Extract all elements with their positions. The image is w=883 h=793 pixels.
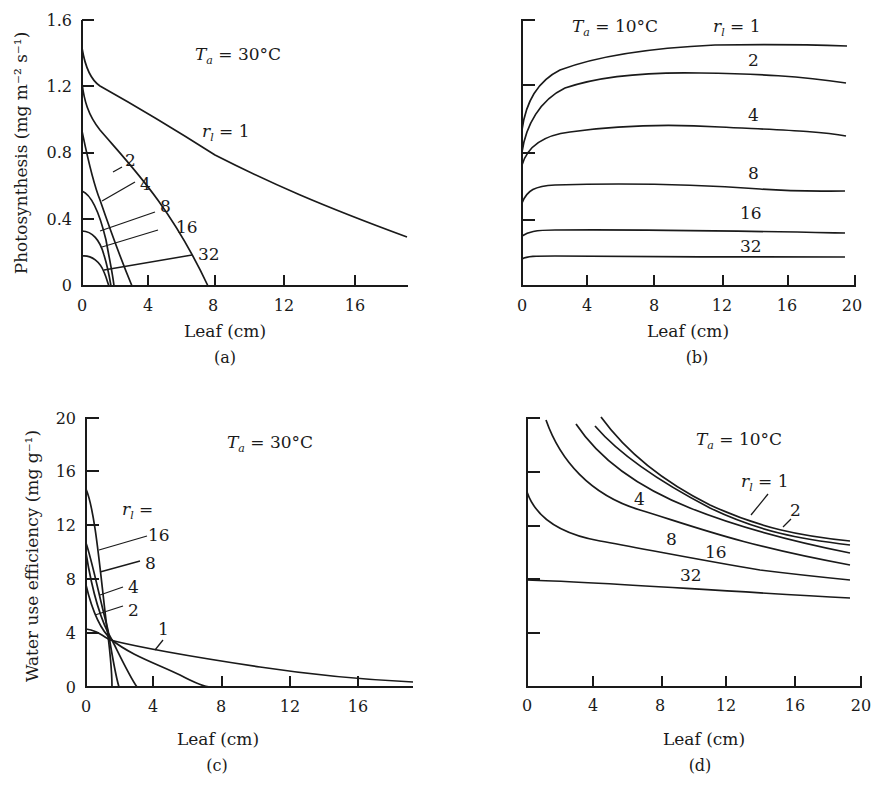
temperature-label: Ta = 10°C <box>696 429 782 452</box>
x-axis-label: Leaf (cm) <box>663 729 745 749</box>
curve-label-32: 32 <box>680 565 702 585</box>
x-tick-label: 20 <box>851 696 871 715</box>
curve-rl-1 <box>86 629 413 682</box>
curve-label-4: 4 <box>634 489 645 509</box>
curve-rl-8 <box>82 191 114 286</box>
leader-line <box>104 255 192 270</box>
rl-label: rl = 1 <box>741 471 789 494</box>
curve-rl-8 <box>522 184 845 203</box>
curve-label-16: 16 <box>740 203 762 223</box>
axes-d <box>527 418 861 687</box>
curve-rl-32 <box>522 256 845 259</box>
y-tick-label: 1.2 <box>47 77 72 96</box>
panel-letter: (c) <box>206 756 227 775</box>
y-tick-label: 4 <box>66 624 76 643</box>
y-tick-label: 16 <box>56 462 76 481</box>
leader-line <box>751 494 768 515</box>
curve-label-32: 32 <box>198 244 220 264</box>
curve-label-8: 8 <box>666 529 677 549</box>
curve-label-2: 2 <box>125 150 136 170</box>
curve-label-4: 4 <box>140 174 151 194</box>
x-tick-label: 8 <box>208 296 218 315</box>
x-tick-label: 8 <box>649 296 659 315</box>
x-axis-label: Leaf (cm) <box>647 321 729 341</box>
axes-c <box>86 418 413 687</box>
leader-line <box>783 519 791 527</box>
axes-b <box>522 20 855 286</box>
x-tick-label: 0 <box>522 696 532 715</box>
x-tick-label: 0 <box>81 697 91 716</box>
y-tick-label: 0 <box>62 276 72 295</box>
y-tick-label: 0.4 <box>47 210 72 229</box>
curve-label-8: 8 <box>748 163 759 183</box>
x-tick-label: 20 <box>842 296 862 315</box>
curve-label-2: 2 <box>748 50 759 70</box>
rl-label: rl = 1 <box>202 121 250 144</box>
x-tick-label: 16 <box>348 697 368 716</box>
curve-label-16: 16 <box>148 525 170 545</box>
curve-rl-16 <box>522 230 845 236</box>
temperature-label: Ta = 10°C <box>572 16 658 39</box>
x-tick-label: 16 <box>777 296 797 315</box>
x-axis-label: Leaf (cm) <box>177 729 259 749</box>
curve-label-16: 16 <box>705 542 727 562</box>
x-tick-label: 12 <box>712 296 732 315</box>
curve-label-8: 8 <box>160 196 171 216</box>
panel-letter: (d) <box>689 756 712 775</box>
leader-line <box>100 561 140 572</box>
x-tick-label: 16 <box>345 296 365 315</box>
curve-rl-4 <box>522 125 846 165</box>
x-tick-label: 12 <box>716 696 736 715</box>
x-tick-label: 8 <box>216 697 226 716</box>
rl-label: rl = <box>122 499 153 522</box>
curve-label-2: 2 <box>128 600 139 620</box>
x-tick-label: 12 <box>280 697 300 716</box>
curve-label-4: 4 <box>128 577 139 597</box>
leader-line <box>99 536 147 550</box>
x-tick-label: 4 <box>143 296 153 315</box>
y-tick-label: 8 <box>66 570 76 589</box>
y-tick-label: 20 <box>56 409 76 428</box>
curve-label-2: 2 <box>790 500 801 520</box>
rl-label: rl = 1 <box>713 16 761 39</box>
y-tick-label: 1.6 <box>47 11 72 30</box>
curve-label-32: 32 <box>740 236 762 256</box>
x-tick-label: 4 <box>588 696 598 715</box>
curve-rl-1 <box>522 45 847 130</box>
panel-b: 0 4 8 12 16 20 Leaf (cm) (b) Ta = 10°C r… <box>517 16 862 367</box>
x-tick-label: 4 <box>582 296 592 315</box>
curve-rl-2 <box>522 73 846 152</box>
y-tick-label: 0 <box>66 678 76 697</box>
y-axis-label: Photosynthesis (mg m⁻² s⁻¹) <box>11 32 31 275</box>
curve-rl-1 <box>82 48 407 237</box>
curve-label-4: 4 <box>748 105 759 125</box>
panel-d: 0 4 8 12 16 20 Leaf (cm) (d) Ta = 10°C r… <box>522 417 871 775</box>
panel-a: 0 0.4 0.8 1.2 1.6 0 4 8 12 16 Leaf (cm) … <box>11 11 408 367</box>
curve-label-1: 1 <box>158 619 169 639</box>
curve-rl-16 <box>86 489 112 687</box>
panel-letter: (b) <box>686 348 709 367</box>
leader-line <box>102 182 135 201</box>
panel-letter: (a) <box>214 348 236 367</box>
y-tick-label: 0.8 <box>47 143 72 162</box>
leader-line <box>155 640 163 650</box>
x-tick-label: 0 <box>517 296 527 315</box>
leader-line <box>102 230 158 247</box>
curve-label-16: 16 <box>176 217 198 237</box>
x-tick-label: 12 <box>274 296 294 315</box>
x-axis-label: Leaf (cm) <box>184 321 266 341</box>
x-tick-label: 4 <box>148 697 158 716</box>
leader-line <box>113 167 122 172</box>
temperature-label: Ta = 30°C <box>227 432 313 455</box>
curve-rl-8 <box>86 543 119 687</box>
x-tick-label: 16 <box>785 696 805 715</box>
temperature-label: Ta = 30°C <box>195 44 281 67</box>
panel-c: 0 4 8 12 16 20 0 4 8 12 16 Leaf (cm) Wat… <box>22 409 413 775</box>
y-tick-label: 12 <box>56 516 76 535</box>
curve-label-8: 8 <box>145 553 156 573</box>
figure: 0 0.4 0.8 1.2 1.6 0 4 8 12 16 Leaf (cm) … <box>0 0 883 793</box>
y-axis-label: Water use efficiency (mg g⁻¹) <box>22 430 42 682</box>
x-tick-label: 8 <box>655 696 665 715</box>
x-tick-label: 0 <box>77 296 87 315</box>
